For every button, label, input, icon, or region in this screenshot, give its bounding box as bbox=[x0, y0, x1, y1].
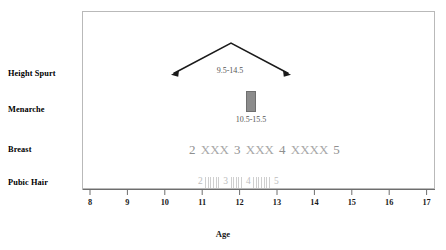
x-tick-label-14: 14 bbox=[304, 199, 324, 207]
height-spurt-left-arrowhead bbox=[171, 71, 179, 77]
breast-stage-sequence: 2 XXX 3 XXX 4 XXXX 5 bbox=[189, 143, 340, 156]
menarche-bar bbox=[246, 91, 256, 112]
chart-vector-overlay bbox=[0, 0, 446, 250]
pubic-hair-stage-3: 3 bbox=[223, 177, 228, 187]
x-tick-label-12: 12 bbox=[230, 199, 250, 207]
x-tick-label-11: 11 bbox=[192, 199, 212, 207]
breast-separator-2: XXX bbox=[246, 143, 274, 156]
breast-separator-1: XXX bbox=[201, 143, 229, 156]
x-tick-label-13: 13 bbox=[267, 199, 287, 207]
height-spurt-right-arrowhead bbox=[283, 71, 291, 77]
height-spurt-range-label: 9.5-14.5 bbox=[200, 67, 260, 75]
pubic-hair-stage-5: 5 bbox=[274, 177, 279, 187]
pubic-hair-hatch-2 bbox=[231, 177, 244, 188]
x-tick-label-8: 8 bbox=[80, 199, 100, 207]
breast-separator-3: XXXX bbox=[291, 143, 329, 156]
breast-stage-5: 5 bbox=[333, 143, 340, 156]
menarche-range-label: 10.5-15.5 bbox=[221, 116, 281, 124]
pubic-hair-hatch-1 bbox=[205, 177, 221, 188]
x-tick-label-9: 9 bbox=[117, 199, 137, 207]
pubic-hair-stage-2: 2 bbox=[198, 177, 203, 187]
pubic-hair-stage-4: 4 bbox=[246, 177, 251, 187]
breast-stage-4: 4 bbox=[279, 143, 286, 156]
x-tick-label-15: 15 bbox=[342, 199, 362, 207]
x-tick-label-17: 17 bbox=[417, 199, 437, 207]
x-tick-label-10: 10 bbox=[155, 199, 175, 207]
x-tick-label-16: 16 bbox=[379, 199, 399, 207]
breast-stage-3: 3 bbox=[234, 143, 241, 156]
pubic-hair-stage-sequence: 2 3 4 5 bbox=[198, 176, 279, 187]
breast-stage-2: 2 bbox=[189, 143, 196, 156]
puberty-sequence-chart: Height Spurt Menarche Breast Pubic Hair bbox=[0, 0, 446, 250]
pubic-hair-hatch-3 bbox=[253, 177, 271, 188]
x-axis-ticks bbox=[90, 190, 427, 196]
x-axis-title: Age bbox=[0, 230, 446, 239]
